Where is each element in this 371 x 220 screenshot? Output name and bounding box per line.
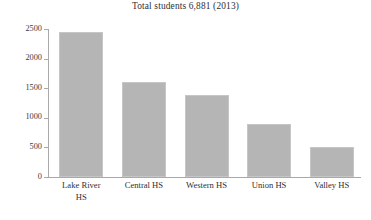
x-axis-label-line: Western HS: [176, 180, 238, 192]
bar-chart-figure: Total students 6,881 (2013) 050010001500…: [0, 0, 371, 220]
bar-valley-hs: [310, 147, 354, 177]
y-tick-label: 0: [2, 173, 42, 181]
y-tick-label: 1500: [2, 84, 42, 92]
bar-western-hs: [185, 95, 229, 177]
y-tick-label: 2500: [2, 25, 42, 33]
x-axis-label-line: HS: [50, 192, 112, 204]
y-tick-mark: [44, 177, 48, 178]
y-axis-tick-labels: 05001000150020002500: [0, 0, 42, 220]
y-tick-label: 500: [2, 143, 42, 151]
bar-lake-river-hs: [59, 32, 103, 177]
bars-layer: [48, 29, 361, 177]
y-tick-label: 2000: [2, 54, 42, 62]
x-axis-label-line: Lake River: [50, 180, 112, 192]
x-axis-label: Union HS: [238, 180, 300, 192]
x-axis-label-line: Valley HS: [301, 180, 363, 192]
bar-union-hs: [247, 124, 291, 177]
x-axis-label-line: Central HS: [113, 180, 175, 192]
y-tick-label: 1000: [2, 113, 42, 121]
x-axis-label-line: Union HS: [238, 180, 300, 192]
x-axis-line: [48, 177, 361, 178]
x-axis-label: Lake RiverHS: [50, 180, 112, 203]
bar-central-hs: [122, 82, 166, 177]
x-axis-label: Western HS: [176, 180, 238, 192]
x-axis-label: Central HS: [113, 180, 175, 192]
x-axis-category-labels: Lake RiverHSCentral HSWestern HSUnion HS…: [48, 180, 361, 218]
chart-title: Total students 6,881 (2013): [0, 1, 371, 11]
x-axis-label: Valley HS: [301, 180, 363, 192]
